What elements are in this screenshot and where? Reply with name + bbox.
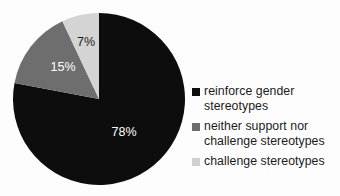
pie-slice-group	[13, 13, 185, 185]
legend-swatch-reinforce	[192, 88, 200, 96]
chart-legend: reinforce gender stereotypes neither sup…	[192, 84, 338, 175]
pie-slice-value-3: 7%	[77, 35, 95, 49]
legend-swatch-neither	[192, 123, 200, 131]
pie-chart-figure: 78%15%7% reinforce gender stereotypes ne…	[0, 0, 340, 196]
legend-item-reinforce[interactable]: reinforce gender stereotypes	[192, 84, 338, 113]
legend-label-neither: neither support nor challenge stereotype…	[204, 119, 338, 148]
pie-slice-value-2: 15%	[50, 60, 75, 74]
legend-item-neither[interactable]: neither support nor challenge stereotype…	[192, 119, 338, 148]
legend-swatch-challenge	[192, 158, 200, 166]
pie-slice-value-1: 78%	[111, 125, 136, 139]
legend-label-challenge: challenge stereotypes	[204, 154, 325, 169]
pie-chart-svg: 78%15%7%	[12, 12, 186, 186]
legend-label-reinforce: reinforce gender stereotypes	[204, 84, 338, 113]
legend-item-challenge[interactable]: challenge stereotypes	[192, 154, 338, 169]
pie-chart-plot-area: 78%15%7%	[12, 12, 186, 186]
